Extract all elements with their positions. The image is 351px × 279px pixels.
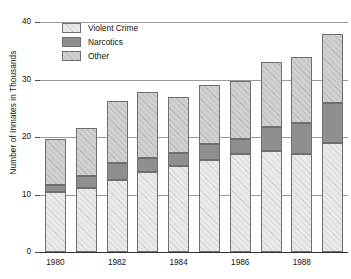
y-tick-mark-10 bbox=[35, 195, 40, 196]
bar-segment-narcotics[interactable] bbox=[45, 185, 66, 192]
bar-segment-narcotics[interactable] bbox=[199, 144, 220, 160]
bar-segment-violent-crime[interactable] bbox=[76, 188, 97, 252]
x-tick-label-1984: 1984 bbox=[169, 258, 187, 267]
bar-segment-other[interactable] bbox=[45, 139, 66, 185]
y-axis-title: Number of Inmates in Thousands bbox=[9, 28, 18, 198]
bar-segment-narcotics[interactable] bbox=[230, 139, 251, 155]
legend-label: Other bbox=[88, 51, 109, 61]
bar-segment-other[interactable] bbox=[291, 57, 312, 123]
bar-segment-other[interactable] bbox=[107, 101, 128, 163]
legend-item-narcotics[interactable]: Narcotics bbox=[62, 35, 138, 48]
bar-segment-violent-crime[interactable] bbox=[45, 192, 66, 252]
legend-label: Violent Crime bbox=[88, 23, 138, 33]
bar-segment-narcotics[interactable] bbox=[291, 123, 312, 154]
bar-segment-other[interactable] bbox=[261, 62, 282, 126]
bar-segment-violent-crime[interactable] bbox=[230, 154, 251, 252]
bar-segment-narcotics[interactable] bbox=[261, 127, 282, 152]
x-tick-label-1980: 1980 bbox=[46, 258, 64, 267]
bar-segment-narcotics[interactable] bbox=[76, 176, 97, 188]
bar-1981[interactable] bbox=[76, 128, 97, 252]
bar-segment-narcotics[interactable] bbox=[137, 158, 158, 172]
bar-1984[interactable] bbox=[168, 97, 189, 252]
bar-segment-other[interactable] bbox=[137, 92, 158, 158]
bar-1986[interactable] bbox=[230, 81, 251, 252]
legend-label: Narcotics bbox=[88, 37, 123, 47]
bar-1983[interactable] bbox=[137, 92, 158, 252]
legend-item-violent[interactable]: Violent Crime bbox=[62, 21, 138, 34]
x-tick-label-1982: 1982 bbox=[108, 258, 126, 267]
bar-segment-other[interactable] bbox=[168, 97, 189, 153]
y-tick-mark-30 bbox=[35, 80, 40, 81]
bar-segment-narcotics[interactable] bbox=[322, 103, 343, 143]
legend-item-other[interactable]: Other bbox=[62, 49, 138, 62]
y-tick-label: 10 bbox=[9, 190, 31, 199]
bar-segment-violent-crime[interactable] bbox=[107, 180, 128, 252]
legend-swatch-narcotics bbox=[62, 37, 81, 47]
bar-segment-violent-crime[interactable] bbox=[291, 154, 312, 252]
bar-segment-violent-crime[interactable] bbox=[137, 172, 158, 253]
bar-segment-violent-crime[interactable] bbox=[261, 151, 282, 252]
bar-segment-violent-crime[interactable] bbox=[322, 143, 343, 252]
bar-segment-narcotics[interactable] bbox=[107, 163, 128, 180]
x-tick-label-1986: 1986 bbox=[231, 258, 249, 267]
stacked-bar-chart: Number of Inmates in Thousands 010203040… bbox=[0, 0, 351, 279]
bar-segment-other[interactable] bbox=[76, 128, 97, 175]
bar-1988[interactable] bbox=[291, 57, 312, 253]
bar-segment-other[interactable] bbox=[199, 85, 220, 144]
y-tick-label: 20 bbox=[9, 132, 31, 141]
chart-legend: Violent CrimeNarcoticsOther bbox=[62, 21, 138, 63]
y-tick-label: 0 bbox=[9, 247, 31, 256]
legend-swatch-violent bbox=[62, 23, 81, 33]
bar-1989[interactable] bbox=[322, 34, 343, 253]
bar-1980[interactable] bbox=[45, 139, 66, 252]
bar-1985[interactable] bbox=[199, 85, 220, 252]
bar-segment-other[interactable] bbox=[230, 81, 251, 139]
bar-segment-violent-crime[interactable] bbox=[199, 160, 220, 252]
bar-segment-other[interactable] bbox=[322, 34, 343, 103]
y-tick-mark-40 bbox=[35, 22, 40, 23]
x-tick-label-1988: 1988 bbox=[293, 258, 311, 267]
bar-1987[interactable] bbox=[261, 62, 282, 252]
y-tick-label: 30 bbox=[9, 75, 31, 84]
bar-1982[interactable] bbox=[107, 101, 128, 252]
bar-segment-violent-crime[interactable] bbox=[168, 166, 189, 252]
legend-swatch-other bbox=[62, 51, 81, 61]
y-tick-mark-20 bbox=[35, 137, 40, 138]
y-tick-label: 40 bbox=[9, 17, 31, 26]
x-axis-line bbox=[40, 252, 348, 253]
bar-segment-narcotics[interactable] bbox=[168, 153, 189, 166]
